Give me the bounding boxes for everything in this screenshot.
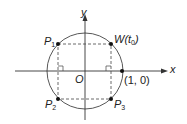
point-p1 <box>56 42 60 46</box>
point-w-t0 <box>109 42 113 46</box>
p1-label: P1 <box>44 36 55 48</box>
dashed-rectangle <box>58 44 111 99</box>
point-p2 <box>56 97 60 101</box>
right-angle-mark-left <box>58 66 63 71</box>
x-axis-arrow-icon <box>161 69 168 74</box>
right-angle-mark-right <box>106 66 111 71</box>
y-axis-label: y <box>81 7 87 18</box>
x-axis-label: x <box>170 64 176 75</box>
diagram-canvas <box>0 0 187 124</box>
point-p3 <box>109 97 113 101</box>
p3-label: P3 <box>114 99 125 111</box>
point-1-0-label: (1, 0) <box>124 75 150 86</box>
unit-circle-diagram: y x O P1 W(t0) P2 P3 (1, 0) <box>0 0 187 124</box>
point-1-0 <box>120 69 124 73</box>
w-t0-label: W(t0) <box>114 34 139 46</box>
p2-label: P2 <box>45 99 56 111</box>
origin-label: O <box>75 74 84 85</box>
